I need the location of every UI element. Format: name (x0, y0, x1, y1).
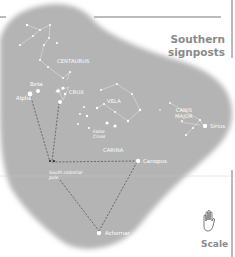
label-achernar: Achernar (105, 230, 130, 236)
label-beta: Beta (30, 81, 43, 87)
star-achernar (97, 231, 101, 235)
star-chart: Southern signposts CENTAURUS Beta Alpha … (0, 0, 235, 257)
label-canis-major: CANIS MAJOR (175, 107, 193, 119)
label-canopus: Canopus (143, 158, 167, 164)
label-crux: CRUX (69, 89, 84, 95)
label-vela: VELA (107, 98, 121, 104)
chart-title: Southern signposts (135, 33, 225, 59)
star-crux-alpha (58, 100, 62, 104)
star-sirius (203, 124, 207, 128)
label-carina: CARINA (103, 147, 123, 153)
label-sirius: Sirius (210, 123, 225, 129)
label-alpha: Alpha (16, 95, 32, 101)
label-centaurus: CENTAURUS (57, 58, 90, 64)
label-false-cross: False Cross (93, 129, 105, 139)
scale-label: Scale (201, 239, 228, 249)
hand-icon (204, 210, 215, 231)
title-line-2: signposts (135, 46, 225, 59)
star-canopus (136, 159, 140, 163)
title-line-1: Southern (135, 33, 225, 46)
label-south-celestial-pole: South celestial pole (49, 170, 82, 180)
star-beta (36, 89, 40, 93)
